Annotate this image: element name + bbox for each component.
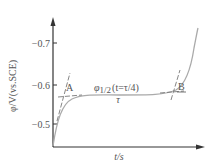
y-tick-label-05: −0.5 [32,119,50,130]
chronopotentiogram-chart: −0.7 −0.6 −0.5 φ/V(vs.SCE) t/s A B φ1/2(… [0,0,217,165]
y-axis-title: φ/V(vs.SCE) [7,60,19,112]
y-axis-arrow-icon [51,17,56,26]
x-axis-title: t/s [114,151,124,162]
y-tick-label-06: −0.6 [32,80,50,91]
y-tick-label-07: −0.7 [32,38,50,49]
phi-subscript: 1/2 [100,85,112,95]
x-axis-arrow-icon [196,145,205,150]
transition-time-tau-label: τ [116,94,120,105]
point-a-label: A [66,82,74,93]
phi-condition: (t=τ/4) [112,82,139,94]
point-b-label: B [178,81,185,92]
point-b-label-group: B [177,81,186,92]
